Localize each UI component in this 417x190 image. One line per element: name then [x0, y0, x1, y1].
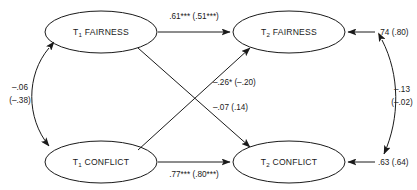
edge-t2-residual-correlation-curve	[382, 40, 396, 154]
edge-label-t1-correlation-line2: (–.38)	[9, 96, 31, 105]
node-label-t2-fairness-main: FAIRNESS	[270, 27, 317, 37]
node-label-t1-fairness: T1 FAIRNESS	[73, 27, 129, 38]
edge-label-t2-fairness-residual: .74 (.80)	[378, 28, 409, 37]
edge-label-fairness-autoregressive: .61*** (.51***)	[169, 12, 219, 21]
edge-label-t2-residual-correlation-line1: –.13	[394, 85, 410, 94]
node-label-t2-fairness: T2 FAIRNESS	[261, 27, 317, 38]
edge-t1-correlation-curve	[32, 48, 49, 146]
node-label-t1-conflict-main: CONFLICT	[82, 157, 130, 167]
edge-label-t2-conflict-residual: .63 (.64)	[378, 158, 409, 167]
path-diagram-figure: T1 FAIRNESS T2 FAIRNESS T1 CONFLICT T2 C…	[0, 0, 417, 190]
node-label-t1-fairness-main: FAIRNESS	[82, 27, 129, 37]
model-canvas: T1 FAIRNESS T2 FAIRNESS T1 CONFLICT T2 C…	[0, 0, 417, 190]
edge-label-fairness-to-conflict: –.07 (.14)	[213, 103, 248, 112]
node-label-t2-conflict-main: CONFLICT	[270, 157, 318, 167]
edge-label-t1-correlation-line1: –.06	[12, 83, 28, 92]
edge-label-conflict-autoregressive: .77*** (.80***)	[169, 170, 219, 179]
node-label-t1-conflict: T1 CONFLICT	[73, 157, 130, 168]
node-label-t2-conflict: T2 CONFLICT	[261, 157, 318, 168]
edge-label-conflict-to-fairness: –.26* (–.20)	[213, 78, 256, 87]
edge-label-t2-residual-correlation-line2: (–.02)	[391, 98, 413, 107]
